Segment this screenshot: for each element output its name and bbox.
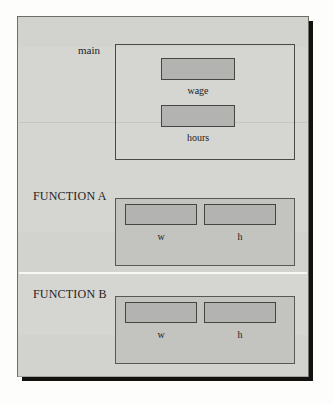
parameter-label-b-h: h	[204, 330, 276, 340]
diagram-canvas: main wage hours FUNCTION A w h FUNCTION …	[0, 0, 333, 404]
variable-label-hours: hours	[161, 133, 235, 143]
scan-texture-band	[18, 17, 308, 47]
parameter-label-b-w: w	[125, 330, 197, 340]
parameter-cell-b-w	[125, 302, 197, 323]
parameter-label-a-w: w	[125, 232, 197, 242]
section-label-main: main	[78, 45, 100, 56]
section-label-function-a: FUNCTION A	[33, 190, 107, 202]
parameter-cell-a-h	[204, 204, 276, 225]
section-label-function-b: FUNCTION B	[33, 288, 107, 300]
parameter-label-a-h: h	[204, 232, 276, 242]
section-separator-white	[19, 272, 307, 274]
parameter-cell-a-w	[125, 204, 197, 225]
variable-cell-hours	[161, 105, 235, 127]
variable-cell-wage	[161, 58, 235, 80]
parameter-cell-b-h	[204, 302, 276, 323]
variable-label-wage: wage	[161, 86, 235, 96]
